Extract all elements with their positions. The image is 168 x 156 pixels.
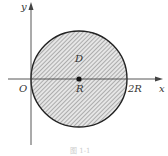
origin-label: O [19,83,27,94]
center-label: R [75,83,84,94]
y-axis-arrow-icon [29,2,34,10]
y-axis-label: y [20,1,27,12]
x-axis-label: x [159,83,165,94]
right-intercept-label: 2R [127,83,142,94]
center-point [76,76,81,81]
diagram-canvas: y x O D R 2R 图 1-1 [0,0,168,156]
x-axis-arrow-icon [155,77,163,82]
region-label: D [74,53,83,64]
figure-caption: 图 1-1 [70,147,91,155]
